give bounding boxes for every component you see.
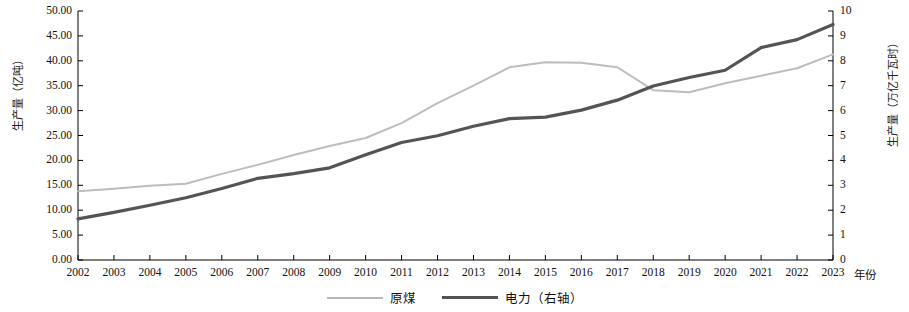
x-tick-2023: 2023 [816, 266, 850, 278]
x-tick-2022: 2022 [780, 266, 814, 278]
y-axis-right-title: 生产量（万亿千瓦时） [884, 31, 900, 153]
chart-root: 生产量（亿吨） 生产量（万亿千瓦时） 年份 0.005.0010.0015.00… [0, 0, 909, 312]
x-tick-2003: 2003 [97, 266, 131, 278]
x-tick-2019: 2019 [672, 266, 706, 278]
y-left-tick-35.00: 35.00 [26, 79, 72, 91]
y-right-tick-1: 1 [840, 228, 862, 240]
y-right-tick-4: 4 [840, 153, 862, 165]
y-right-tick-3: 3 [840, 178, 862, 190]
series-line-power [78, 24, 833, 218]
legend-label-power: 电力（右轴） [505, 288, 583, 307]
x-tick-2018: 2018 [636, 266, 670, 278]
legend-line-coal-icon [327, 297, 383, 299]
x-tick-2009: 2009 [313, 266, 347, 278]
y-left-tick-25.00: 25.00 [26, 129, 72, 141]
x-axis-title: 年份 [854, 266, 876, 282]
x-tick-2007: 2007 [241, 266, 275, 278]
y-left-tick-40.00: 40.00 [26, 54, 72, 66]
y-right-tick-8: 8 [840, 54, 862, 66]
x-tick-2002: 2002 [61, 266, 95, 278]
y-left-tick-30.00: 30.00 [26, 104, 72, 116]
x-tick-2014: 2014 [492, 266, 526, 278]
y-left-tick-45.00: 45.00 [26, 29, 72, 41]
x-tick-2005: 2005 [169, 266, 203, 278]
series-line-coal [78, 54, 833, 191]
legend-line-power-icon [442, 296, 498, 299]
y-left-tick-15.00: 15.00 [26, 178, 72, 190]
legend-label-coal: 原煤 [390, 288, 416, 307]
y-right-tick-10: 10 [840, 4, 862, 16]
y-right-tick-9: 9 [840, 29, 862, 41]
x-tick-2011: 2011 [385, 266, 419, 278]
x-tick-2004: 2004 [133, 266, 167, 278]
y-right-tick-5: 5 [840, 129, 862, 141]
x-tick-2015: 2015 [528, 266, 562, 278]
y-left-tick-50.00: 50.00 [26, 4, 72, 16]
y-right-tick-2: 2 [840, 203, 862, 215]
y-left-tick-5.00: 5.00 [26, 228, 72, 240]
x-tick-2010: 2010 [349, 266, 383, 278]
x-tick-2017: 2017 [600, 266, 634, 278]
y-left-tick-0.00: 0.00 [26, 253, 72, 265]
x-tick-2006: 2006 [205, 266, 239, 278]
x-tick-2020: 2020 [708, 266, 742, 278]
y-left-tick-10.00: 10.00 [26, 203, 72, 215]
x-tick-2008: 2008 [277, 266, 311, 278]
legend-item-power: 电力（右轴） [442, 288, 583, 307]
x-tick-2021: 2021 [744, 266, 778, 278]
y-right-tick-6: 6 [840, 104, 862, 116]
y-left-tick-20.00: 20.00 [26, 153, 72, 165]
chart-legend: 原煤 电力（右轴） [0, 288, 909, 307]
legend-item-coal: 原煤 [327, 288, 416, 307]
x-tick-2016: 2016 [564, 266, 598, 278]
y-right-tick-7: 7 [840, 79, 862, 91]
x-tick-2012: 2012 [421, 266, 455, 278]
y-axis-left-title: 生产量（亿吨） [9, 31, 25, 153]
y-right-tick-0: 0 [840, 253, 862, 265]
x-tick-2013: 2013 [456, 266, 490, 278]
